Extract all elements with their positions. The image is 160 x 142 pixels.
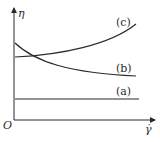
viscosity-chart: η O γ̇ (a) (b) (c) bbox=[0, 0, 160, 142]
x-axis-label: γ̇ bbox=[145, 123, 152, 136]
label-b: (b) bbox=[116, 62, 132, 75]
y-axis-label: η bbox=[18, 7, 25, 20]
label-a: (a) bbox=[116, 85, 131, 98]
label-c: (c) bbox=[116, 16, 131, 29]
origin-label: O bbox=[3, 119, 12, 132]
